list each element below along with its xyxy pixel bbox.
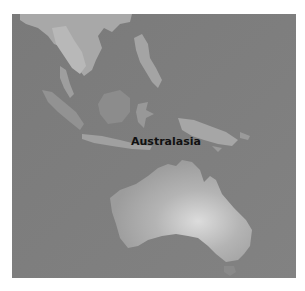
map-frame: Australasia [12, 14, 296, 278]
region-label: Australasia [131, 135, 201, 148]
